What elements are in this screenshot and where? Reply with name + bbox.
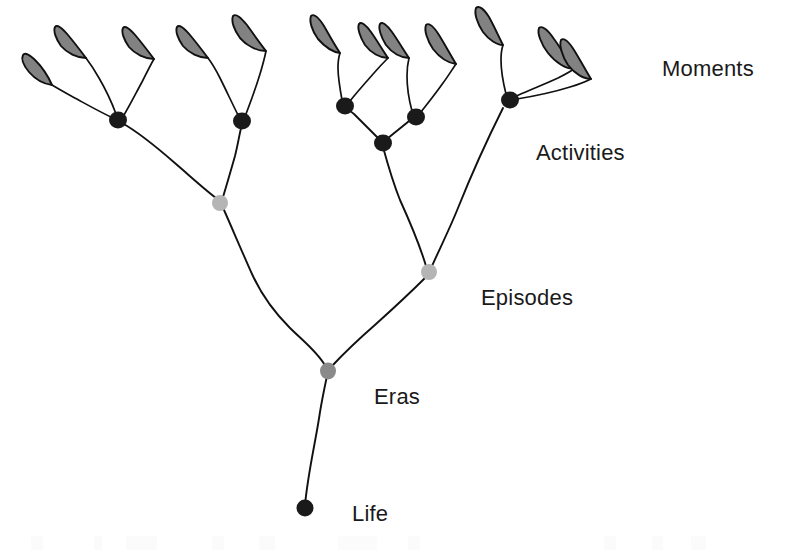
label-life: Life xyxy=(352,501,388,526)
node-eras-1[interactable] xyxy=(320,363,336,380)
node-activities-4[interactable] xyxy=(374,135,392,152)
node-activities-6[interactable] xyxy=(501,92,519,109)
node-activities-5[interactable] xyxy=(407,109,425,126)
tree-diagram-canvas: Moments Activities Episodes Eras Life xyxy=(0,0,785,550)
label-activities: Activities xyxy=(536,140,625,165)
label-eras: Eras xyxy=(374,384,420,409)
node-life-root[interactable] xyxy=(297,500,314,517)
node-activities-3[interactable] xyxy=(336,98,354,115)
hierarchy-tree-graphic: Moments Activities Episodes Eras Life xyxy=(0,0,785,550)
background xyxy=(0,0,785,550)
node-episodes-1[interactable] xyxy=(212,195,228,211)
node-activities-2[interactable] xyxy=(233,113,251,130)
label-moments: Moments xyxy=(662,56,754,81)
node-episodes-2[interactable] xyxy=(421,264,437,280)
label-episodes: Episodes xyxy=(481,285,573,310)
node-activities-1[interactable] xyxy=(109,112,127,129)
